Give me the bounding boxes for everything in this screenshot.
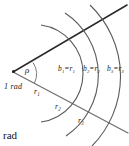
radius-label-2: r₂ — [55, 103, 61, 111]
lower-ray — [13, 72, 128, 133]
angle-arc-rho — [33, 63, 36, 84]
figure-caption: rad — [3, 130, 17, 141]
upper-ray — [13, 5, 127, 72]
arc-1 — [41, 25, 83, 122]
radius-label-1: r₁ — [34, 88, 40, 96]
diagram-canvas — [0, 0, 129, 146]
vertex-dot — [12, 70, 15, 73]
radian-diagram-figure: ρ 1 rad b₁=r₁ b₂=r₂ b₃=r₃ r₁ r₂ r₃ rad — [0, 0, 129, 146]
radius-label-3: r₃ — [78, 117, 84, 125]
arc-length-label-3: b₃=r₃ — [107, 65, 124, 73]
angle-label-rho: ρ — [25, 66, 29, 75]
arc-3 — [90, 5, 121, 146]
angle-value-label: 1 rad — [4, 83, 22, 91]
arc-length-label-2: b₂=r₂ — [83, 65, 100, 73]
arc-length-label-1: b₁=r₁ — [58, 65, 75, 73]
